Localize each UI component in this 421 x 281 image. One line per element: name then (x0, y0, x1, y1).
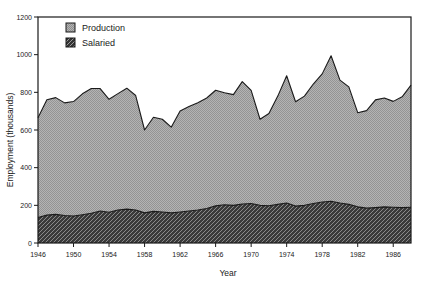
x-tick-label: 1974 (279, 251, 295, 258)
x-tick-label: 1962 (172, 251, 188, 258)
y-tick-label: 800 (20, 89, 32, 96)
production-swatch (66, 23, 75, 32)
x-tick-label: 1966 (208, 251, 224, 258)
legend-label-salaried: Salaried (82, 38, 115, 48)
y-tick-label: 400 (20, 164, 32, 171)
employment-area-chart: 020040060080010001200 194619501954195819… (0, 0, 421, 281)
x-tick-label: 1950 (66, 251, 82, 258)
legend-label-production: Production (82, 23, 125, 33)
salaried-swatch (66, 38, 75, 47)
y-tick-label: 600 (20, 127, 32, 134)
x-tick-label: 1970 (243, 251, 259, 258)
y-tick-label: 1200 (16, 14, 32, 21)
y-tick-label: 200 (20, 202, 32, 209)
x-tick-label: 1954 (101, 251, 117, 258)
x-tick-label: 1986 (385, 251, 401, 258)
x-tick-label: 1978 (314, 251, 330, 258)
x-tick-label: 1958 (137, 251, 153, 258)
x-axis-title: Year (219, 268, 236, 278)
y-tick-label: 0 (28, 240, 32, 247)
x-tick-label: 1946 (30, 251, 46, 258)
chart-canvas: 020040060080010001200 194619501954195819… (0, 0, 421, 281)
y-axis-title: Employment (thousands) (5, 93, 15, 188)
y-tick-label: 1000 (16, 51, 32, 58)
x-tick-label: 1982 (350, 251, 366, 258)
